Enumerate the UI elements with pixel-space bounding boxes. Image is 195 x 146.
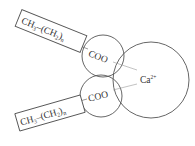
upper-ionic-bond — [113, 62, 137, 70]
lower-alkyl-chain: CH3–(CH2)n — [15, 95, 85, 131]
upper-alkyl-chain: CH3–(CH2)n — [15, 10, 87, 53]
lower-carboxylate-label: COO — [87, 89, 109, 104]
calcium-ion-label: Ca2+ — [140, 74, 156, 85]
lower-ionic-bond — [113, 84, 137, 90]
calcium-ion-circle — [113, 42, 189, 118]
calcium-soap-diagram: CH3–(CH2)n COO CH3–(CH2)n COO Ca2+ — [0, 0, 195, 146]
upper-carboxylate-label: COO — [87, 48, 109, 65]
